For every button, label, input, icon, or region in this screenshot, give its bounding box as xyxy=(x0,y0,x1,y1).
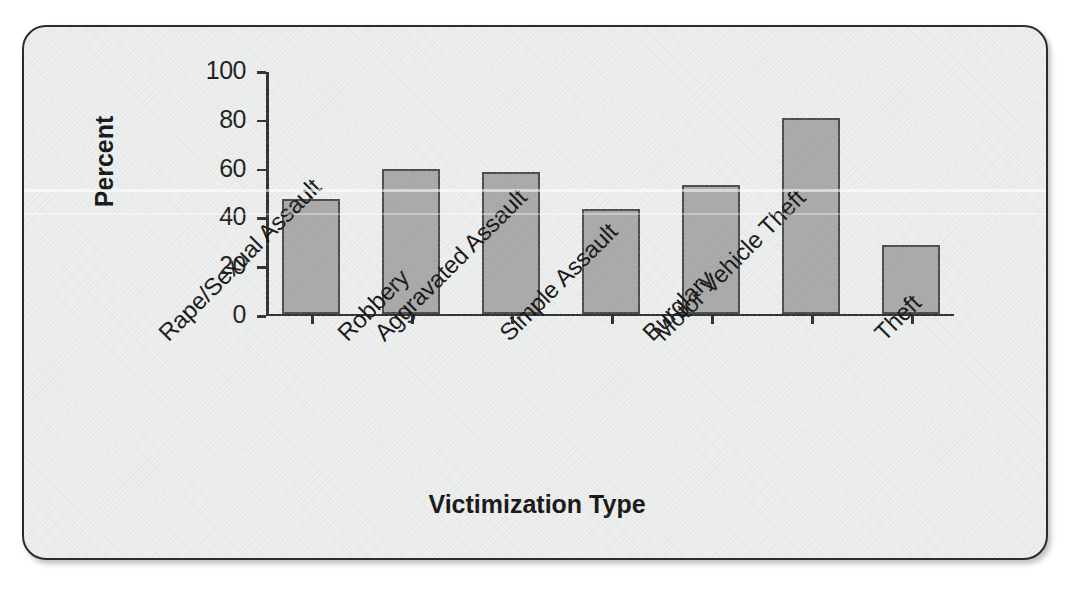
y-axis-title: Percent xyxy=(90,72,119,252)
x-axis-title: Victimization Type xyxy=(24,490,1048,519)
y-tick-label: 60 xyxy=(186,154,246,183)
chart-figure-frame: Percent 0 20 40 60 80 100 xyxy=(22,25,1048,560)
y-tick-label: 40 xyxy=(186,202,246,231)
x-tick-mark xyxy=(311,316,314,324)
y-tick-label: 100 xyxy=(186,56,246,85)
y-tick-label: 80 xyxy=(186,105,246,134)
bars-layer xyxy=(268,72,954,314)
y-tick-mark xyxy=(257,120,266,123)
x-tick-mark xyxy=(811,316,814,324)
x-tick-mark xyxy=(611,316,614,324)
plot-area: Percent 0 20 40 60 80 100 xyxy=(24,27,1048,560)
y-tick-mark xyxy=(257,266,266,269)
y-tick-mark xyxy=(257,315,266,318)
x-tick-mark xyxy=(711,316,714,324)
y-tick-mark xyxy=(257,169,266,172)
y-tick-mark xyxy=(257,71,266,74)
